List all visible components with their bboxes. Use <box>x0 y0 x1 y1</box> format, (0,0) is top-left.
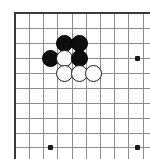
go-board-diagram <box>0 0 150 159</box>
white-stone <box>85 65 102 82</box>
white-stone <box>56 65 73 82</box>
black-stone <box>71 50 88 67</box>
white-stone <box>56 50 73 67</box>
black-stone <box>71 35 88 52</box>
board-stone-layer <box>0 0 150 159</box>
black-stone <box>56 35 73 52</box>
